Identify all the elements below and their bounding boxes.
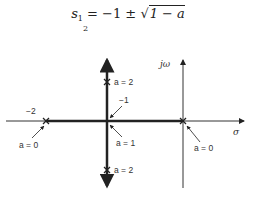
label-bottom-a2: a = 2	[114, 165, 133, 175]
arrow-right-a0	[187, 126, 200, 142]
label-right-a0: a = 0	[194, 143, 213, 153]
arrow-left-a0	[32, 126, 44, 138]
label-left-a0: a = 0	[19, 140, 38, 150]
label-minus-two: −2	[26, 106, 36, 116]
arrow-minus-one	[110, 106, 122, 118]
label-top-a2: a = 2	[114, 77, 133, 87]
label-minus-one: −1	[119, 95, 129, 105]
arrow-center-a1	[110, 125, 122, 137]
root-locus-diagram: jω σ −2 −1 a = 0 a = 1 a = 0 a = 2 a = 2	[0, 0, 256, 198]
label-center-a1: a = 1	[116, 138, 135, 148]
imaginary-axis-label: jω	[158, 59, 171, 69]
real-axis-label: σ	[233, 127, 240, 137]
